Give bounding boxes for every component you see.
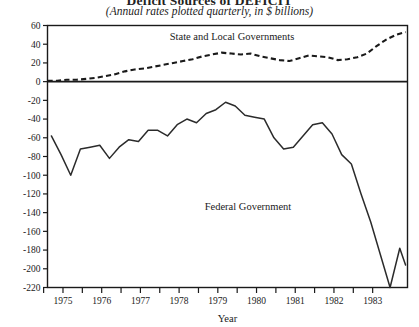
svg-text:1981: 1981 xyxy=(286,296,305,306)
svg-text:1983: 1983 xyxy=(363,296,382,306)
chart-figure: Deficit Sources of DEFICIT (Annual rates… xyxy=(0,0,419,327)
svg-text:-20: -20 xyxy=(28,96,41,106)
svg-text:20: 20 xyxy=(31,58,41,68)
plot-frame xyxy=(48,26,408,288)
series-label-federal: Federal Government xyxy=(205,201,292,212)
svg-text:0: 0 xyxy=(36,77,41,87)
svg-text:60: 60 xyxy=(31,21,41,31)
series-federal-line xyxy=(51,102,405,287)
svg-text:-140: -140 xyxy=(23,208,41,218)
svg-text:1976: 1976 xyxy=(92,296,111,306)
y-axis-ticks: 6040200-20-40-60-80-100-120-140-160-180-… xyxy=(23,21,47,293)
svg-text:1980: 1980 xyxy=(247,296,266,306)
svg-text:1978: 1978 xyxy=(170,296,189,306)
svg-text:1977: 1977 xyxy=(131,296,150,306)
plot-area: 6040200-20-40-60-80-100-120-140-160-180-… xyxy=(0,0,419,327)
svg-text:1975: 1975 xyxy=(53,296,72,306)
chart-svg: 6040200-20-40-60-80-100-120-140-160-180-… xyxy=(0,0,419,327)
series-label-state-local: State and Local Governments xyxy=(170,31,295,42)
svg-text:-100: -100 xyxy=(23,171,41,181)
x-axis-title: Year xyxy=(218,313,238,324)
svg-text:-80: -80 xyxy=(28,152,41,162)
svg-text:1979: 1979 xyxy=(208,296,227,306)
svg-text:-220: -220 xyxy=(23,283,41,293)
svg-text:-120: -120 xyxy=(23,189,41,199)
svg-text:-40: -40 xyxy=(28,114,41,124)
svg-text:-160: -160 xyxy=(23,227,41,237)
svg-text:40: 40 xyxy=(31,40,41,50)
svg-text:1982: 1982 xyxy=(324,296,343,306)
svg-text:-60: -60 xyxy=(28,133,41,143)
svg-text:-180: -180 xyxy=(23,245,41,255)
svg-text:-200: -200 xyxy=(23,264,41,274)
x-axis-ticks: 197519761977197819791980198119821983 xyxy=(44,288,383,307)
